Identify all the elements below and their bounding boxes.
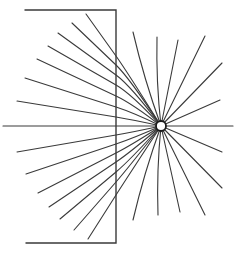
field-line: [26, 126, 161, 174]
field-line: [161, 36, 205, 126]
field-line: [48, 46, 161, 126]
field-line: [161, 40, 178, 126]
field-line: [88, 126, 161, 239]
field-line: [161, 100, 220, 126]
field-line: [161, 126, 222, 152]
field-line: [161, 126, 180, 212]
field-line: [133, 126, 161, 220]
field-line-diagram: [0, 0, 237, 253]
field-line: [161, 126, 222, 188]
field-line: [17, 101, 161, 126]
field-line: [157, 37, 161, 126]
field-line: [158, 126, 161, 215]
field-line: [161, 126, 205, 215]
point-charge-icon: [156, 121, 166, 131]
field-line: [161, 63, 222, 126]
field-line: [74, 126, 161, 230]
